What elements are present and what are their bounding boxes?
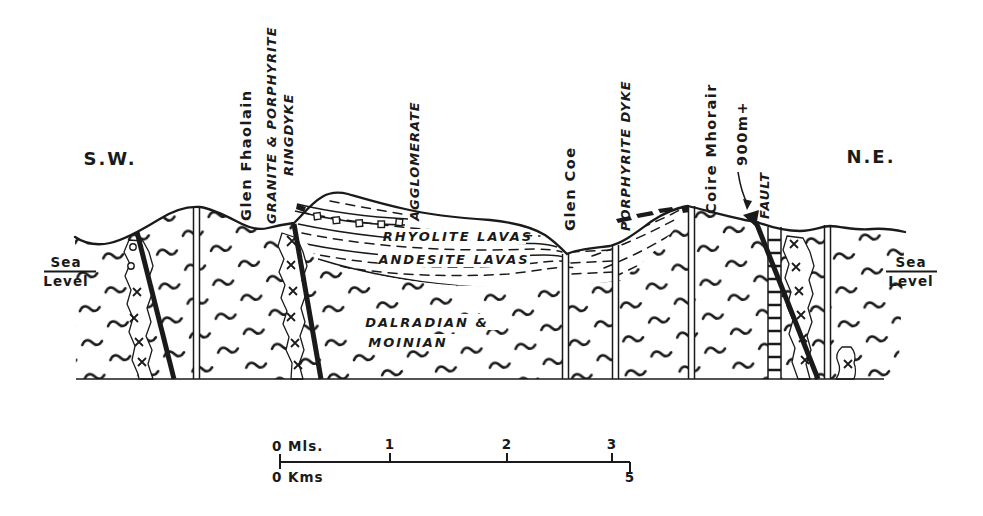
agglomerate-label: AGGLOMERATE bbox=[407, 101, 422, 222]
scale-kms-zero: 0 Kms bbox=[272, 469, 324, 485]
band-vesicle bbox=[128, 263, 134, 269]
glen-coe-label: Glen Coe bbox=[562, 146, 578, 231]
agglomerate-block bbox=[396, 219, 403, 226]
dark-patch bbox=[636, 211, 654, 218]
summit-height-label: 900m+ bbox=[734, 101, 750, 166]
glen-fhaolain-label: Glen Fhaolain bbox=[238, 89, 254, 221]
scale-mile-1: 1 bbox=[385, 436, 395, 452]
ladder-intrusion bbox=[768, 227, 781, 379]
arrow-head bbox=[743, 199, 752, 210]
rhyolite-lavas-label: RHYOLITE LAVAS bbox=[383, 229, 533, 244]
compass-ne-label: N.E. bbox=[846, 146, 895, 167]
porphyrite-dyke-label: PORPHYRITE DYKE bbox=[618, 80, 633, 231]
sea-level-label: Sea bbox=[896, 254, 927, 270]
scale-bar: 0 Mls. 1 2 3 0 Kms 5 bbox=[272, 436, 635, 485]
band-vesicle bbox=[130, 244, 136, 250]
ringdyke-label-line2: RINGDYKE bbox=[281, 93, 296, 176]
height-arrow bbox=[738, 172, 752, 210]
sea-level-label: Level bbox=[43, 273, 88, 289]
scale-bar-mile-ticks bbox=[390, 453, 612, 462]
agglomerate-block bbox=[356, 220, 363, 227]
coire-mhorair-label: Coire Mhorair bbox=[703, 83, 719, 214]
figure-page: Sea Level Sea Level S.W. N.E. RHYOLITE L… bbox=[0, 0, 983, 516]
fault-label: FAULT bbox=[757, 172, 772, 219]
sea-level-label: Level bbox=[888, 273, 933, 289]
agglomerate-block bbox=[314, 213, 321, 220]
xblob-bottom-right bbox=[836, 347, 856, 379]
agglomerate-block bbox=[333, 217, 340, 224]
andesite-lavas-label: ANDESITE LAVAS bbox=[377, 252, 529, 267]
cross-section-figure: Sea Level Sea Level S.W. N.E. RHYOLITE L… bbox=[0, 0, 983, 516]
dyke-glen-coe bbox=[563, 254, 569, 379]
basement-label-line1: DALRADIAN & bbox=[365, 315, 489, 330]
scale-kms-end: 5 bbox=[625, 469, 635, 485]
scale-miles-zero: 0 Mls. bbox=[272, 438, 323, 454]
ringdyke-label-line1: GRANITE & PORPHYRITE bbox=[264, 26, 279, 224]
dyke-coire-mhorair bbox=[689, 206, 695, 379]
sea-level-label: Sea bbox=[51, 254, 82, 270]
dyke-porphyrite bbox=[613, 245, 619, 379]
scale-mile-3: 3 bbox=[607, 436, 617, 452]
compass-sw-label: S.W. bbox=[83, 148, 136, 169]
agglomerate-block bbox=[378, 221, 385, 228]
basement-label-line2: MOINIAN bbox=[368, 335, 447, 350]
dyke-north-east bbox=[825, 225, 831, 379]
scale-mile-2: 2 bbox=[502, 436, 512, 452]
dyke-left-hill bbox=[194, 207, 200, 379]
